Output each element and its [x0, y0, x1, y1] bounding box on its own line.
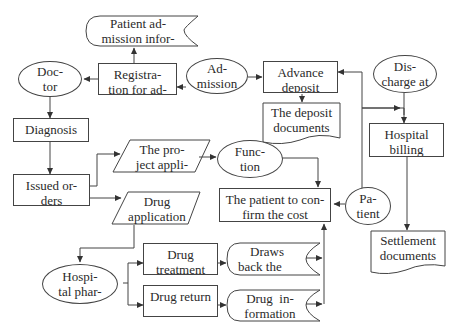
- draws-back-line2: back the: [228, 259, 306, 274]
- admission-line2: mission: [197, 76, 237, 91]
- flowchart-canvas: Patient ad- mission infor- Doc- tor Regi…: [0, 0, 459, 334]
- confirm-cost-line1: The patient to con-: [220, 192, 330, 207]
- patient-line2: tient: [356, 206, 379, 221]
- function-line2: tion: [235, 159, 265, 174]
- doctor-line2: tor: [37, 79, 63, 94]
- deposit-documents-line2: documents: [263, 120, 340, 135]
- doctor-line1: Doc-: [37, 64, 63, 79]
- hospital-pharmacy-line2: tal phar-: [58, 284, 101, 299]
- project-application-node: The pro- ject appli-: [122, 142, 202, 172]
- issued-orders-line1: Issued or-: [14, 178, 89, 193]
- diagnosis-line1: Diagnosis: [14, 122, 88, 137]
- patient-node: Pa- tient: [345, 187, 391, 225]
- discharge-node: Dis- charge at: [373, 55, 437, 93]
- patient-admission-info-line2: mission infor-: [90, 31, 186, 46]
- doctor-node: Doc- tor: [18, 61, 82, 97]
- admission-node: Ad- mission: [186, 58, 248, 94]
- hospital-billing-line2: billing: [370, 142, 443, 157]
- drug-application-line2: application: [114, 209, 200, 224]
- issued-orders-node: Issued or- ders: [13, 174, 90, 206]
- hospital-pharmacy-node: Hospi- tal phar-: [42, 264, 118, 304]
- diagnosis-node: Diagnosis: [13, 118, 89, 142]
- project-application-line2: ject appli-: [122, 157, 202, 172]
- registration-line1: Registra-: [99, 67, 176, 82]
- settlement-documents-line1: Settlement: [371, 233, 445, 248]
- drug-information-line2: formation: [230, 306, 310, 321]
- advance-deposit-line2: deposit: [264, 80, 337, 93]
- drug-treatment-node: Drug treatment: [143, 243, 218, 275]
- drug-information-node: Drug in- formation: [230, 291, 310, 321]
- drug-treatment-line2: treatment: [144, 262, 217, 275]
- patient-admission-info-node: Patient ad- mission infor-: [90, 16, 186, 46]
- settlement-documents-line2: documents: [371, 248, 445, 263]
- drug-application-node: Drug application: [114, 194, 200, 224]
- discharge-line2: charge at: [381, 74, 428, 89]
- admission-line1: Ad-: [197, 61, 237, 76]
- registration-node: Registra- tion for ad-: [98, 63, 177, 95]
- drug-information-line1: Drug in-: [230, 291, 310, 306]
- drug-return-node: Drug return: [143, 285, 218, 317]
- drug-return-line1: Drug return: [144, 289, 217, 304]
- patient-line1: Pa-: [356, 191, 379, 206]
- confirm-cost-line2: firm the cost: [220, 207, 330, 222]
- hospital-billing-node: Hospital billing: [369, 123, 444, 157]
- confirm-cost-node: The patient to con- firm the cost: [219, 188, 331, 222]
- drug-treatment-line1: Drug: [144, 247, 217, 262]
- discharge-line1: Dis-: [381, 59, 428, 74]
- patient-admission-info-line1: Patient ad-: [90, 16, 186, 31]
- project-application-line1: The pro-: [122, 142, 202, 157]
- settlement-documents-node: Settlement documents: [371, 233, 445, 265]
- function-node: Func- tion: [217, 140, 283, 178]
- hospital-pharmacy-line1: Hospi-: [58, 269, 101, 284]
- issued-orders-line2: ders: [14, 193, 89, 206]
- advance-deposit-line1: Advance: [264, 65, 337, 80]
- draws-back-node: Draws back the: [228, 244, 306, 274]
- draws-back-line1: Draws: [228, 244, 306, 259]
- deposit-documents-node: The deposit documents: [263, 105, 340, 137]
- hospital-billing-line1: Hospital: [370, 127, 443, 142]
- drug-application-line1: Drug: [114, 194, 200, 209]
- registration-line2: tion for ad-: [99, 82, 176, 95]
- advance-deposit-node: Advance deposit: [263, 61, 338, 93]
- deposit-documents-line1: The deposit: [263, 105, 340, 120]
- function-line1: Func-: [235, 144, 265, 159]
